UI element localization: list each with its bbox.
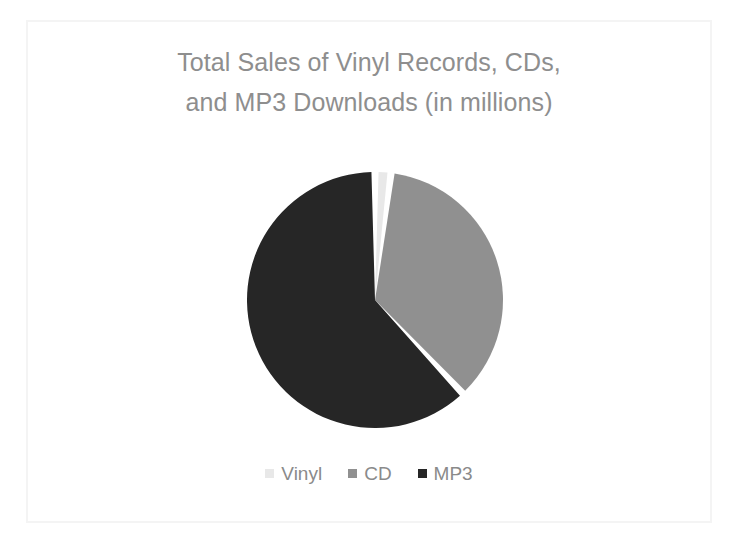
slide-canvas: Total Sales of Vinyl Records, CDs, and M… bbox=[0, 0, 736, 541]
pie-plot-area bbox=[26, 20, 712, 523]
pie-svg bbox=[247, 172, 503, 428]
legend-label-cd: CD bbox=[364, 464, 391, 483]
legend-swatch-cd-icon bbox=[348, 469, 357, 478]
legend-label-mp3: MP3 bbox=[434, 464, 473, 483]
pie-chart-figure: Total Sales of Vinyl Records, CDs, and M… bbox=[26, 20, 712, 523]
chart-legend: Vinyl CD MP3 bbox=[26, 464, 712, 483]
legend-item-cd[interactable]: CD bbox=[348, 464, 391, 483]
legend-item-vinyl[interactable]: Vinyl bbox=[265, 464, 322, 483]
legend-swatch-vinyl-icon bbox=[265, 469, 274, 478]
legend-label-vinyl: Vinyl bbox=[281, 464, 322, 483]
legend-item-mp3[interactable]: MP3 bbox=[418, 464, 473, 483]
pie-slice-group bbox=[247, 172, 503, 428]
legend-swatch-mp3-icon bbox=[418, 469, 427, 478]
